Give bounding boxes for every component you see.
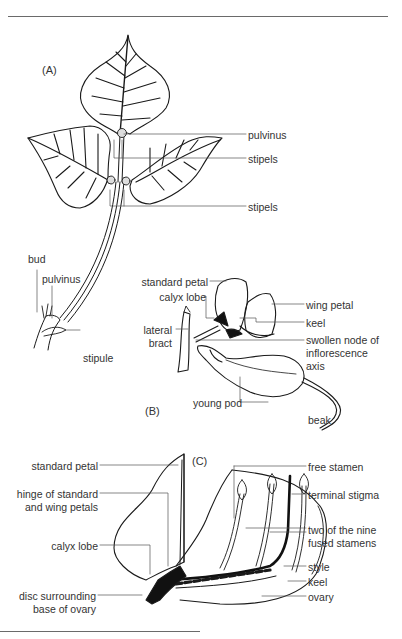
label-young-pod: young pod <box>193 397 242 409</box>
label-wing-petal: wing petal <box>306 299 353 311</box>
label-bud: bud <box>28 253 46 265</box>
label-disc-1: disc surrounding <box>19 590 96 602</box>
label-keel-b: keel <box>306 317 325 329</box>
label-swollen-node-2: inflorescence <box>306 347 368 359</box>
label-lateral-bract-2: bract <box>149 337 172 349</box>
label-stipels-upper: stipels <box>248 153 278 165</box>
label-standard-petal-b: standard petal <box>141 276 208 288</box>
label-beak: beak <box>308 414 331 426</box>
label-calyx-lobe-c: calyx lobe <box>51 540 98 552</box>
leader-lines-a <box>37 134 246 330</box>
panel-label-c: (C) <box>192 455 207 467</box>
label-pulvinus-upper: pulvinus <box>248 129 287 141</box>
flower-section <box>114 454 326 604</box>
panel-label-b: (B) <box>145 405 160 417</box>
label-hinge-2: and wing petals <box>25 501 98 513</box>
label-hinge-1: hinge of standard <box>17 488 98 500</box>
label-calyx-lobe-b: calyx lobe <box>159 291 206 303</box>
label-standard-petal-c: standard petal <box>31 460 98 472</box>
label-lateral-bract-1: lateral <box>143 324 172 336</box>
panel-label-a: (A) <box>42 64 57 76</box>
label-swollen-node-3: axis <box>306 360 325 372</box>
label-fused-stamens-2: fused stamens <box>308 537 376 549</box>
label-keel-c: keel <box>308 576 327 588</box>
label-disc-2: base of ovary <box>33 603 96 615</box>
label-swollen-node-1: swollen node of <box>306 334 379 346</box>
label-ovary: ovary <box>308 591 334 603</box>
label-stipels-lower: stipels <box>248 201 278 213</box>
label-fused-stamens-1: two of the nine <box>308 524 376 536</box>
label-style: style <box>308 561 330 573</box>
label-stipule: stipule <box>83 352 113 364</box>
label-terminal-stigma: terminal stigma <box>308 489 379 501</box>
label-pulvinus-lower: pulvinus <box>42 273 81 285</box>
label-free-stamen: free stamen <box>308 461 363 473</box>
